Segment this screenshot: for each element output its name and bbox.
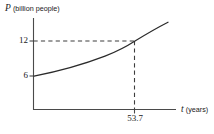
x-axis-tick-label-53-7: 53.7: [115, 114, 155, 123]
x-axis-title: t (years): [181, 105, 208, 115]
y-axis-tick-label-12: 12: [10, 36, 28, 45]
y-axis-symbol: P: [5, 3, 11, 13]
y-axis-unit: (billion people): [13, 4, 60, 13]
y-axis-tick-label-6: 6: [10, 71, 28, 80]
population-curve: [34, 22, 168, 76]
population-growth-chart: P (billion people) t (years) 12 6 53.7: [0, 0, 214, 134]
x-axis-symbol: t: [181, 104, 184, 114]
x-axis-unit: (years): [186, 105, 208, 114]
y-axis-title: P (billion people): [5, 4, 60, 14]
